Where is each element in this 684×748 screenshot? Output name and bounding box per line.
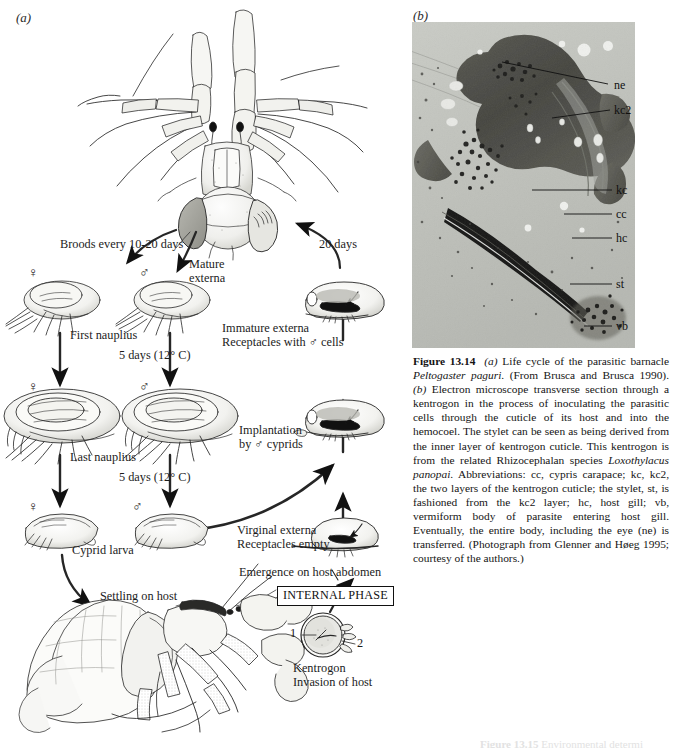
label-kentrogon-number-1: 1 [290,627,296,641]
micrograph-label-ne: ne [614,78,625,93]
caption-text-1: Life cycle of the parasitic barnacle [498,355,669,367]
label-mature-externa: Mature externa [189,258,225,285]
next-figure-caption-partial: Figure 13.15 Environmental determi [480,738,680,748]
male-symbol-last-nauplius: ♂ [139,380,150,394]
label-20-days: 20 days [319,238,357,252]
label-emergence: Emergence on host abdomen [239,566,381,580]
caption-species-peltogaster: Peltogaster paguri [413,369,501,381]
micrograph-label-kc: kc [616,183,627,198]
caption-part-b-marker: (b) [413,383,426,395]
micrograph-label-cc: cc [616,207,627,222]
next-caption-figure-number: Figure 13.15 [480,738,538,748]
electron-micrograph: ne kc2 kc cc hc st vb [412,22,635,348]
male-symbol-cyprid: ♂ [132,500,143,514]
caption-figure-number: Figure 13.14 [413,355,475,367]
micrograph-label-hc: hc [616,231,627,246]
caption-part-a-marker: (a) [484,355,497,367]
panel-a-lifecycle-diagram: (a) [0,0,410,748]
label-implantation: Implantation by ♂ cyprids [239,424,303,451]
label-five-days-1: 5 days (12° C) [119,349,191,363]
label-broods: Broods every 10-20 days [60,238,183,252]
lifecycle-illustration [0,0,410,748]
label-settling-on-host: Settling on host [100,590,177,604]
label-immature-externa: Immature externa Receptacles with ♂ cell… [222,322,344,349]
female-symbol-cyprid: ♀ [28,500,39,514]
female-symbol-first-nauplius: ♀ [28,266,39,280]
micrograph-label-vb: vb [616,319,628,334]
next-caption-text: Environmental determi [538,738,642,748]
label-kentrogon: Kentrogon Invasion of host [293,662,372,689]
male-symbol-first-nauplius: ♂ [139,266,150,280]
label-first-nauplius: First nauplius [70,329,137,343]
internal-phase-box: INTERNAL PHASE [277,586,394,606]
micrograph-label-st: st [616,277,624,292]
label-five-days-2: 5 days (12° C) [119,471,191,485]
label-kentrogon-number-2: 2 [357,637,363,651]
label-virginal-externa: Virginal externa Receptacles empty [237,524,330,551]
caption-text-2: . (From Brusca and Brusca 1990). [501,369,669,381]
label-last-nauplius: Last nauplius [70,451,136,465]
figure-page: (a) [0,0,684,748]
figure-caption: Figure 13.14(a) Life cycle of the parasi… [413,354,669,565]
caption-text-4: . Abbreviations: cc, cypris carapace; kc… [413,468,669,565]
label-cyprid-larva: Cyprid larva [72,544,134,558]
female-symbol-last-nauplius: ♀ [28,380,39,394]
micrograph-label-kc2: kc2 [614,103,631,118]
